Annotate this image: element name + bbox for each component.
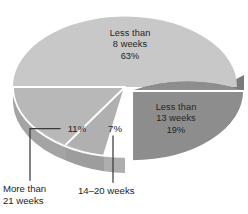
slice-label-value: 19% xyxy=(140,125,212,136)
slice-value-14-20-weeks: 7% xyxy=(102,123,128,134)
slice-value-more-than-21-weeks: 11% xyxy=(62,123,92,134)
slice-label-line1: Less than xyxy=(78,28,182,39)
pie-chart-figure: Less than 8 weeks 63% Less than 13 weeks… xyxy=(0,0,248,214)
slice-label-less-than-13-weeks: Less than 13 weeks 19% xyxy=(140,102,212,136)
callout-label-14-20-weeks: 14–20 weeks xyxy=(78,185,162,197)
slice-side-less-than-8 xyxy=(104,155,125,173)
slice-label-less-than-8-weeks: Less than 8 weeks 63% xyxy=(78,28,182,62)
slice-label-value: 63% xyxy=(78,51,182,62)
slice-label-line2: 13 weeks xyxy=(140,113,212,124)
callout-label-more-than-21-weeks: More than 21 weeks xyxy=(3,183,77,206)
slice-label-line2: 8 weeks xyxy=(78,39,182,50)
callout-label-line2: 21 weeks xyxy=(3,195,77,207)
slice-label-line1: Less than xyxy=(140,102,212,113)
callout-label-line1: More than xyxy=(3,183,77,195)
